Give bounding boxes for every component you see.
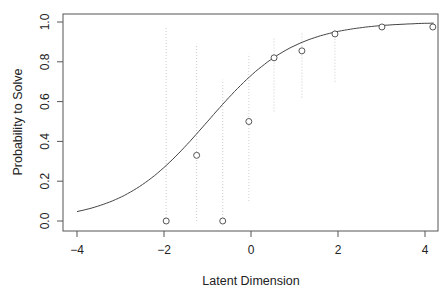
x-axis-title: Latent Dimension <box>202 274 299 288</box>
data-point <box>332 31 338 37</box>
y-tick-label: 0.0 <box>38 212 52 229</box>
data-point <box>220 218 226 224</box>
y-tick-label: 0.4 <box>38 133 52 150</box>
data-points <box>163 24 436 224</box>
logistic-curve <box>77 23 434 212</box>
x-tick-label: 0 <box>248 243 255 257</box>
y-tick-label: 0.2 <box>38 173 52 190</box>
y-axis: 0.00.20.40.60.81.0 <box>38 13 63 229</box>
x-tick-label: 4 <box>422 243 429 257</box>
x-axis: −4−2024 <box>70 231 429 257</box>
y-tick-label: 0.8 <box>38 53 52 70</box>
interval-lines <box>166 28 335 221</box>
icc-plot: −4−2024 0.00.20.40.60.81.0 Latent Dimens… <box>0 0 446 292</box>
x-tick-label: −4 <box>70 243 84 257</box>
y-axis-title: Probability to Solve <box>11 68 25 175</box>
x-tick-label: −2 <box>157 243 171 257</box>
data-point <box>430 24 436 30</box>
data-point <box>299 48 305 54</box>
data-point <box>246 119 252 125</box>
data-point <box>271 55 277 61</box>
y-tick-label: 1.0 <box>38 13 52 30</box>
data-point <box>379 24 385 30</box>
data-point <box>194 152 200 158</box>
y-tick-label: 0.6 <box>38 93 52 110</box>
data-point <box>163 218 169 224</box>
x-tick-label: 2 <box>335 243 342 257</box>
